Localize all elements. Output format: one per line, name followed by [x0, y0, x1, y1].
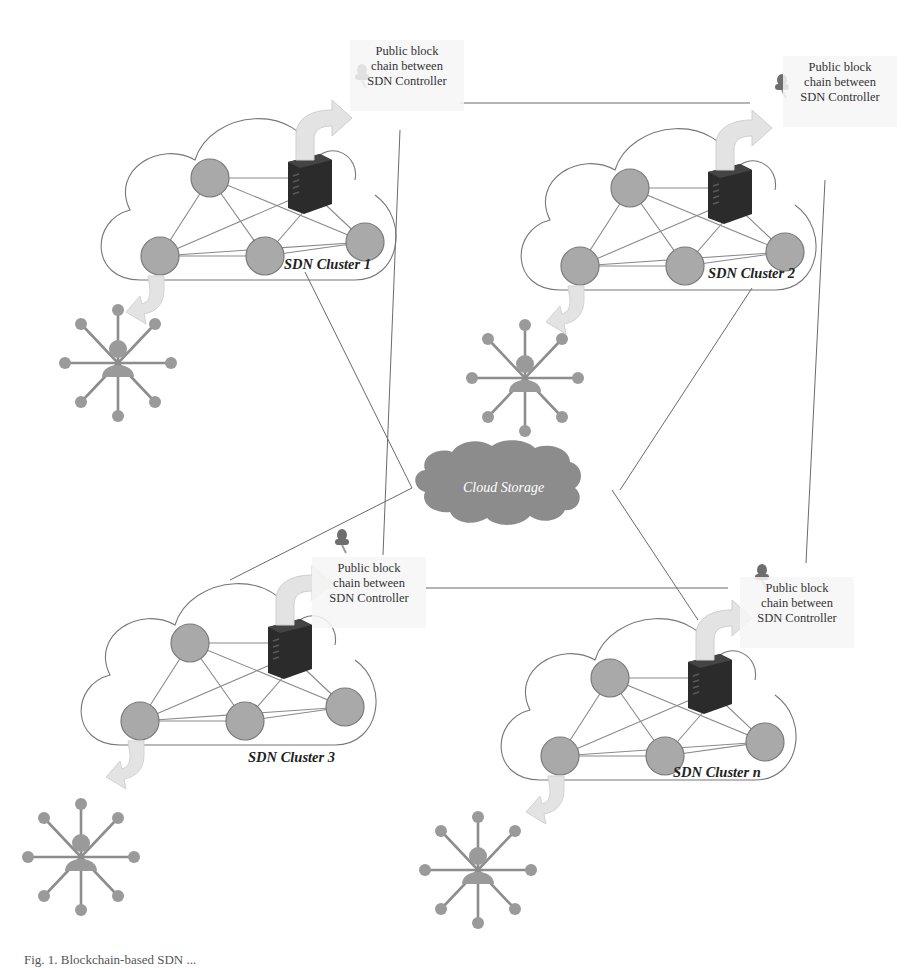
label-line: Public block [785, 60, 895, 75]
cluster-label-3: SDN Cluster 3 [248, 749, 335, 766]
label-line: chain between [352, 59, 462, 74]
cluster-label-2: SDN Cluster 2 [708, 265, 795, 282]
blockchain-label-cluster-1: Public block chain between SDN Controlle… [350, 40, 464, 111]
label-line: chain between [314, 576, 424, 591]
label-line: chain between [742, 596, 852, 611]
user-star-network-icon [466, 319, 584, 437]
user-star-network-icon [59, 304, 177, 422]
label-line: SDN Controller [352, 74, 462, 89]
label-line: SDN Controller [785, 90, 895, 105]
cluster-label-1: SDN Cluster 1 [284, 256, 371, 273]
blockchain-label-cluster-3: Public block chain between SDN Controlle… [312, 557, 426, 628]
blockchain-label-cluster-n: Public block chain between SDN Controlle… [740, 577, 854, 648]
blockchain-label-cluster-2: Public block chain between SDN Controlle… [783, 56, 897, 127]
cluster-label-n: SDN Cluster n [673, 764, 761, 781]
label-line: Public block [352, 44, 462, 59]
label-line: chain between [785, 75, 895, 90]
label-line: Public block [314, 561, 424, 576]
label-line: SDN Controller [742, 611, 852, 626]
user-star-network-icon [22, 798, 140, 916]
user-star-network-icon [419, 811, 537, 929]
cloud-storage-label: Cloud Storage [463, 480, 544, 496]
label-line: SDN Controller [314, 591, 424, 606]
sdn-cluster-2 [521, 74, 816, 334]
label-line: Public block [742, 581, 852, 596]
figure-caption: Fig. 1. Blockchain-based SDN ... [24, 952, 196, 968]
